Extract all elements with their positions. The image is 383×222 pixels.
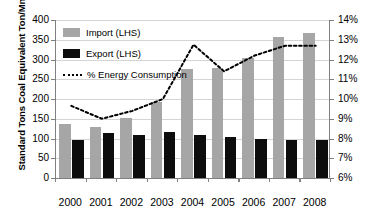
y-axis-right-tick-label: 8% — [338, 134, 378, 144]
y-axis-left-tick-label: 0 — [9, 173, 49, 183]
x-axis-line — [55, 178, 331, 179]
legend-label: Import (LHS) — [86, 27, 140, 38]
y-axis-left-tick-label: 50 — [9, 153, 49, 163]
y-axis-left-tick-label: 350 — [9, 35, 49, 45]
y-axis-left-tick-label: 200 — [9, 94, 49, 104]
y-axis-right-tick-label: 12% — [338, 55, 378, 65]
y-axis-left-tick-label: 100 — [9, 134, 49, 144]
y-axis-left-tick-label: 150 — [9, 114, 49, 124]
y-axis-left-title: Standard Tons Coal Equivalent Ton/Mn — [16, 1, 27, 171]
energy-import-export-chart: Standard Tons Coal Equivalent Ton/Mn 050… — [0, 0, 383, 222]
legend-item: % Energy Consumption — [63, 66, 187, 83]
legend-swatch-export-icon — [63, 49, 80, 58]
legend-swatch-line-icon — [63, 74, 82, 76]
y-axis-right-tick-label: 6% — [338, 173, 378, 183]
y-axis-left-tick-label: 300 — [9, 55, 49, 65]
y-axis-right-tick-label: 9% — [338, 114, 378, 124]
y-axis-right-tick-label: 11% — [338, 74, 378, 84]
x-axis-tick-label: 2008 — [295, 196, 335, 208]
chart-legend: Import (LHS)Export (LHS)% Energy Consump… — [63, 24, 187, 87]
legend-label: % Energy Consumption — [87, 69, 187, 80]
legend-swatch-import-icon — [63, 28, 80, 37]
y-axis-right-tick-label: 14% — [338, 15, 378, 25]
y-axis-right-tick-label: 13% — [338, 35, 378, 45]
legend-label: Export (LHS) — [86, 48, 141, 59]
y-axis-left-tick-label: 400 — [9, 15, 49, 25]
y-axis-right-tick-label: 7% — [338, 153, 378, 163]
legend-item: Import (LHS) — [63, 24, 187, 41]
y-axis-left-tick-label: 250 — [9, 74, 49, 84]
y-axis-right-tick-label: 10% — [338, 94, 378, 104]
legend-item: Export (LHS) — [63, 45, 187, 62]
